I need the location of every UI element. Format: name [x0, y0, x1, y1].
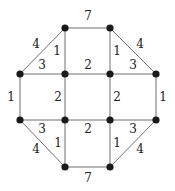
graph-node [152, 70, 159, 77]
edge-weight-label: 2 [113, 90, 121, 104]
edge-weight-label: 1 [54, 136, 62, 150]
edge-weight-label: 1 [113, 136, 121, 150]
graph-node [152, 116, 159, 123]
edge-weight-label: 2 [84, 58, 92, 72]
edge-weight-label: 3 [38, 122, 46, 136]
edge-weight-label: 4 [136, 37, 144, 51]
graph-node [106, 24, 113, 31]
graph-node [61, 116, 68, 123]
edge-weight-label: 2 [54, 90, 62, 104]
edge-weight-label: 4 [32, 37, 40, 51]
graph-node [61, 70, 68, 77]
graph-node [106, 163, 113, 170]
graph-node [106, 70, 113, 77]
edge-weight-label: 4 [136, 142, 144, 156]
edge-weight-label: 7 [84, 9, 92, 23]
edge-weight-label: 3 [129, 122, 137, 136]
edge-weight-label: 1 [159, 90, 167, 104]
edge-weight-label: 4 [32, 142, 40, 156]
edge-weight-label: 3 [38, 58, 46, 72]
edge-weight-label: 1 [113, 44, 121, 58]
edge-weight-label: 3 [129, 58, 137, 72]
graph-node [61, 163, 68, 170]
graph-node [61, 24, 68, 31]
edge-weight-label: 1 [7, 90, 15, 104]
edge-weight-label: 1 [53, 44, 61, 58]
edge-weight-labels: 74141323122132341147 [7, 9, 167, 185]
graph-node [106, 116, 113, 123]
edge-weight-label: 7 [84, 171, 92, 185]
graph-node [16, 116, 23, 123]
weighted-graph-diagram: 74141323122132341147 [0, 0, 175, 191]
graph-node [16, 70, 23, 77]
edge-weight-label: 2 [84, 122, 92, 136]
